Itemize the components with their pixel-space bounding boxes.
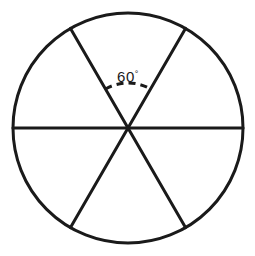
- geometry-figure: 60°: [0, 0, 255, 256]
- degree-symbol-icon: °: [135, 69, 139, 79]
- circle-sectors-diagram: 60°: [0, 0, 255, 256]
- angle-label-value: 60: [117, 68, 135, 85]
